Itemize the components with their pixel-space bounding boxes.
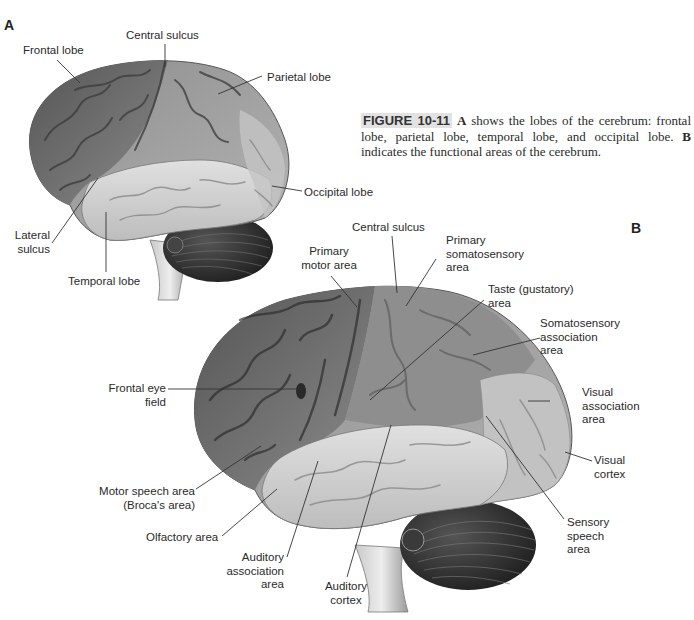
label-visual-assoc-line2: association xyxy=(582,400,640,414)
label-auditory-association-area: Auditory association area xyxy=(212,551,284,592)
label-visual-cortex-line1: Visual xyxy=(594,454,625,468)
label-somatosensory-association-area: Somatosensory association area xyxy=(540,317,620,358)
figure-10-11: A Frontal lobe Central sulcus Parietal l… xyxy=(0,0,694,620)
label-primary-motor-line1: Primary xyxy=(293,245,365,259)
label-frontal-eye-line2: field xyxy=(90,396,166,410)
label-frontal-eye-field: Frontal eye field xyxy=(90,382,166,409)
label-lateral-sulcus-line2: sulcus xyxy=(8,243,50,257)
panel-b-letter: B xyxy=(631,220,641,236)
label-sensory-speech-line2: speech xyxy=(567,530,609,544)
label-lateral-sulcus-line1: Lateral xyxy=(8,229,50,243)
label-auditory-cortex: Auditory cortex xyxy=(318,580,374,607)
label-temporal-lobe: Temporal lobe xyxy=(68,275,140,289)
label-auditory-cortex-line1: Auditory xyxy=(318,580,374,594)
label-central-sulcus-b: Central sulcus xyxy=(352,221,425,235)
label-somato-assoc-line3: area xyxy=(540,344,620,358)
label-primary-somato-line2: somatosensory xyxy=(446,248,524,262)
label-parietal-lobe: Parietal lobe xyxy=(267,71,331,85)
label-taste-line1: Taste (gustatory) xyxy=(488,283,574,297)
label-sensory-speech-area: Sensory speech area xyxy=(567,516,609,557)
label-auditory-cortex-line2: cortex xyxy=(318,594,374,608)
label-taste-line2: area xyxy=(488,297,574,311)
caption-ref-a: A xyxy=(457,113,466,128)
label-primary-motor-line2: motor area xyxy=(293,259,365,273)
label-frontal-eye-line1: Frontal eye xyxy=(90,382,166,396)
label-somato-assoc-line1: Somatosensory xyxy=(540,317,620,331)
label-primary-somato-line3: area xyxy=(446,261,524,275)
label-motor-speech-line1: Motor speech area xyxy=(70,485,195,499)
label-visual-association-area: Visual association area xyxy=(582,386,640,427)
label-frontal-lobe: Frontal lobe xyxy=(23,44,84,58)
figure-caption: FIGURE 10-11 A shows the lobes of the ce… xyxy=(361,113,691,160)
label-somato-assoc-line2: association xyxy=(540,331,620,345)
label-visual-cortex-line2: cortex xyxy=(594,468,625,482)
label-lateral-sulcus: Lateral sulcus xyxy=(8,229,50,256)
caption-ref-b: B xyxy=(682,129,691,144)
label-visual-assoc-line1: Visual xyxy=(582,386,640,400)
brain-a xyxy=(29,60,288,300)
caption-text-2: indicates the functional areas of the ce… xyxy=(361,144,601,159)
label-visual-assoc-line3: area xyxy=(582,413,640,427)
label-central-sulcus-a: Central sulcus xyxy=(126,29,199,43)
label-sensory-speech-line3: area xyxy=(567,543,609,557)
label-visual-cortex: Visual cortex xyxy=(594,454,625,481)
label-motor-speech-area: Motor speech area (Broca's area) xyxy=(70,485,195,512)
label-sensory-speech-line1: Sensory xyxy=(567,516,609,530)
label-motor-speech-line2: (Broca's area) xyxy=(70,499,195,513)
label-auditory-assoc-line1: Auditory xyxy=(212,551,284,565)
label-olfactory-area: Olfactory area xyxy=(146,531,218,545)
panel-a-letter: A xyxy=(4,17,14,33)
label-occipital-lobe: Occipital lobe xyxy=(304,186,373,200)
label-taste-area: Taste (gustatory) area xyxy=(488,283,574,310)
label-primary-somato-line1: Primary xyxy=(446,234,524,248)
label-primary-motor-area: Primary motor area xyxy=(293,245,365,272)
label-auditory-assoc-line3: area xyxy=(212,578,284,592)
label-primary-somatosensory-area: Primary somatosensory area xyxy=(446,234,524,275)
figure-id: FIGURE 10-11 xyxy=(361,113,452,128)
label-auditory-assoc-line2: association xyxy=(212,565,284,579)
